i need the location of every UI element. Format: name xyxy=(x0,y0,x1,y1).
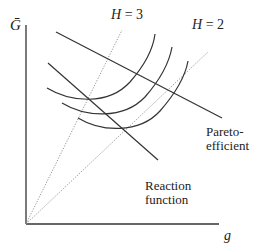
pareto-efficient-line xyxy=(56,32,222,118)
ray-h3-label: H = 3 xyxy=(110,7,143,22)
pareto-label-line1: Pareto- xyxy=(206,124,244,139)
diagram: Ḡ g H = 3 H = 2 Pareto- efficient Reacti… xyxy=(0,0,259,251)
indifference-curve-2 xyxy=(62,47,172,114)
indifference-curve-3 xyxy=(78,61,188,128)
ray-h2-label: H = 2 xyxy=(191,17,224,32)
x-axis-label: g xyxy=(224,228,231,243)
reaction-label-line1: Reaction xyxy=(145,178,192,193)
indifference-curve-1 xyxy=(47,34,155,99)
y-axis-label: Ḡ xyxy=(10,17,21,33)
pareto-label-line2: efficient xyxy=(206,138,249,153)
reaction-label-line2: function xyxy=(145,192,189,207)
